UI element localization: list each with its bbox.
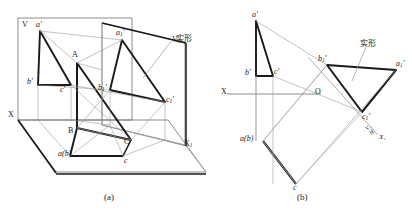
label-point-B: B (68, 127, 73, 135)
caption-panel-b: (b) (297, 192, 308, 202)
label-c1b-mark: ' (368, 112, 370, 121)
plane-h-left-edge (18, 120, 56, 173)
label-c-b: c (293, 184, 297, 192)
annotation-true-shape-b: 实形 (360, 37, 376, 48)
label-c-lower-a: c (124, 157, 128, 165)
label-b-prime: b' (27, 78, 33, 86)
label-c-prime: c' (60, 86, 65, 94)
label-c1-mark: ' (172, 95, 174, 104)
label-b1-mark: ' (105, 83, 107, 92)
label-axis-x-b: X (221, 88, 227, 96)
label-axis-x1-b: X₁ (379, 134, 386, 141)
label-c-prime-b: c' (274, 68, 279, 76)
label-point-C: C (124, 138, 129, 146)
label-point-A: A (72, 51, 78, 59)
label-a1b-mark: ' (403, 59, 405, 68)
triangle-abc-v1-projection (110, 40, 165, 102)
label-b1b-mark: ' (325, 54, 327, 63)
label-a1-prime-b: a1' (396, 60, 404, 68)
label-b-prime-b: b' (245, 69, 251, 77)
label-ab-coincident-b: a(b) (240, 135, 253, 143)
label-origin-o: O (315, 88, 321, 96)
label-b1-prime: b1' (98, 84, 106, 92)
triangle-true-shape (327, 65, 396, 112)
leader-line-true-shape-b (352, 47, 366, 81)
descriptive-geometry-figure (0, 0, 412, 216)
label-x1-sub: 1 (190, 142, 193, 148)
label-a-prime-b: a' (252, 11, 258, 19)
label-axis-x-a: X (8, 111, 14, 119)
label-a-prime: a' (36, 21, 42, 29)
fold-line-x1-trace (186, 146, 206, 172)
label-c1-prime-b: c1' (362, 113, 370, 121)
triangle-abc-space (77, 63, 131, 140)
label-plane-v: V (22, 21, 28, 29)
triangle-abc-v-projection (38, 31, 71, 85)
triangle-front-view (256, 21, 273, 76)
annotation-true-shape-a: 实形 (176, 32, 192, 43)
label-a1-prime: a1' (116, 29, 124, 37)
label-c1-prime: c1' (166, 96, 174, 104)
label-ab-coincident-a: a(b) (58, 150, 71, 158)
label-b1-prime-b: b1' (318, 55, 326, 63)
label-axis-x1-a: X1 (184, 140, 193, 148)
label-a1-mark: ' (123, 28, 125, 37)
leader-line-true-shape-a (143, 40, 172, 78)
caption-panel-a: (a) (104, 192, 114, 202)
